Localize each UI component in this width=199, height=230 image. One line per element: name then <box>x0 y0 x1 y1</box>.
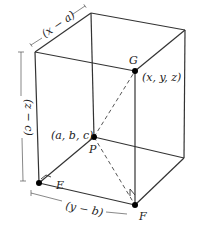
label-height: (z − c) <box>22 99 35 136</box>
point-F <box>132 202 138 208</box>
label-F: F <box>138 210 147 223</box>
point-E <box>36 180 42 186</box>
box-edges <box>35 13 185 205</box>
diagonal-PF <box>94 137 135 205</box>
dimension-width: (y − b) <box>31 190 127 219</box>
label-P-coords: (a, b, c) <box>51 129 93 142</box>
right-angle-marker-F <box>130 189 135 196</box>
dimension-depth: (x − a) <box>30 4 86 46</box>
point-G <box>132 68 138 74</box>
dimension-height: (z − c) <box>18 52 35 181</box>
diagonal-PG <box>94 71 135 137</box>
box-diagram: G (x, y, z) (a, b, c) P E F (x − a) (z −… <box>0 0 199 230</box>
label-G: G <box>129 54 138 67</box>
label-G-coords: (x, y, z) <box>142 71 181 84</box>
label-P: P <box>88 143 97 156</box>
label-E: E <box>55 179 64 192</box>
label-width: (y − b) <box>64 199 104 219</box>
